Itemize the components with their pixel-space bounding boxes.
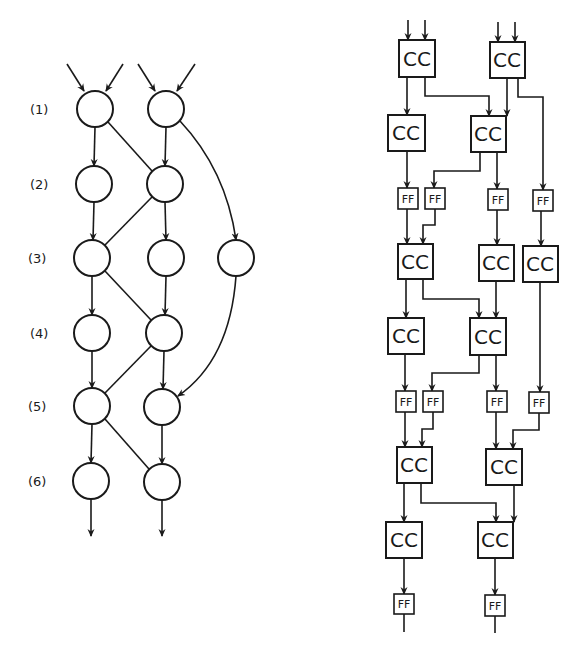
svg-text:FF: FF	[491, 396, 504, 409]
cc-block-1b: CC	[490, 42, 525, 78]
level-label-3: (3)	[28, 251, 46, 266]
node-3a	[74, 240, 110, 276]
node-6b	[144, 464, 180, 500]
ff-block-2a: FF	[396, 391, 416, 412]
svg-text:CC: CC	[490, 455, 518, 479]
ff-block-3b: FF	[485, 595, 505, 616]
node-4b	[146, 315, 182, 351]
cc-block-6b: CC	[478, 522, 513, 558]
svg-text:CC: CC	[526, 252, 554, 276]
level-label-4: (4)	[30, 326, 48, 341]
svg-text:CC: CC	[400, 453, 428, 477]
svg-text:CC: CC	[403, 47, 431, 71]
svg-text:CC: CC	[392, 121, 420, 145]
svg-text:CC: CC	[481, 528, 509, 552]
node-4a	[74, 315, 110, 351]
cc-block-5a: CC	[397, 447, 432, 483]
node-3c	[218, 240, 254, 276]
ff-block-2d: FF	[529, 392, 549, 413]
cc-block-3c: CC	[523, 246, 558, 282]
svg-text:FF: FF	[427, 396, 440, 409]
ff-block-2b: FF	[423, 391, 443, 412]
cc-block-4a: CC	[388, 318, 424, 354]
svg-text:FF: FF	[398, 598, 411, 611]
level-label-5: (5)	[28, 399, 46, 414]
svg-text:FF: FF	[429, 193, 442, 206]
level-label-6: (6)	[28, 474, 46, 489]
svg-text:FF: FF	[537, 195, 550, 208]
svg-text:FF: FF	[400, 396, 413, 409]
level-label-2: (2)	[30, 177, 48, 192]
svg-text:FF: FF	[489, 600, 502, 613]
node-3b	[148, 240, 184, 276]
svg-text:FF: FF	[492, 194, 505, 207]
ff-block-1a: FF	[398, 188, 418, 209]
cc-block-6a: CC	[386, 522, 422, 558]
node-1b	[148, 91, 184, 127]
diagram-canvas: (1) (2) (3) (4) (5) (6)	[0, 0, 585, 652]
svg-text:CC: CC	[401, 250, 429, 274]
cc-block-2a: CC	[388, 115, 425, 151]
level-label-1: (1)	[30, 102, 48, 117]
cc-block-2b: CC	[471, 116, 506, 152]
ff-block-2c: FF	[487, 391, 507, 412]
svg-text:CC: CC	[474, 325, 502, 349]
node-2a	[76, 166, 112, 202]
cc-block-3b: CC	[479, 245, 514, 281]
node-1a	[77, 91, 113, 127]
node-5a	[74, 388, 110, 424]
svg-text:FF: FF	[533, 397, 546, 410]
svg-text:CC: CC	[482, 251, 510, 275]
ff-block-1c: FF	[488, 189, 508, 210]
node-6a	[73, 463, 109, 499]
input-arrows	[67, 64, 195, 91]
node-5b	[144, 389, 180, 425]
ff-block-1b: FF	[425, 188, 445, 209]
pipelined-circuit: CC CC CC CC CC CC CC CC CC CC CC CC CC F…	[386, 20, 558, 633]
graph-nodes	[73, 91, 254, 500]
ff-block-3a: FF	[394, 594, 414, 614]
svg-text:CC: CC	[474, 122, 502, 146]
svg-text:CC: CC	[392, 324, 420, 348]
cc-block-1a: CC	[399, 40, 435, 77]
cc-block-4b: CC	[470, 318, 506, 355]
svg-text:CC: CC	[493, 48, 521, 72]
svg-text:CC: CC	[390, 528, 418, 552]
cc-block-3a: CC	[398, 244, 433, 279]
node-2b	[147, 166, 183, 202]
svg-text:FF: FF	[402, 193, 415, 206]
ff-block-1d: FF	[533, 190, 553, 211]
cc-block-5b: CC	[486, 449, 522, 485]
dependence-graph: (1) (2) (3) (4) (5) (6)	[28, 64, 254, 536]
